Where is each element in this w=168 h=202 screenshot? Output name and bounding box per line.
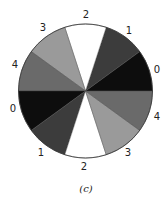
sector-label: 4 xyxy=(12,59,18,70)
sector-label: 1 xyxy=(126,25,132,36)
sector-label: 0 xyxy=(154,64,160,75)
sector-label: 1 xyxy=(38,147,44,158)
sector-label: 0 xyxy=(10,103,16,114)
figure-caption: (c) xyxy=(79,183,93,194)
sector-group xyxy=(19,24,153,158)
sector-wheel-diagram: 2104321043 (c) xyxy=(0,0,168,202)
sector-label: 3 xyxy=(125,147,131,158)
sector-label: 4 xyxy=(154,111,160,122)
sector-label: 2 xyxy=(81,161,87,172)
sector-label: 3 xyxy=(40,22,46,33)
sector-label: 2 xyxy=(83,9,89,20)
